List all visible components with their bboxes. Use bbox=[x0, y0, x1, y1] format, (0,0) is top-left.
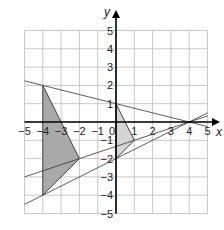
y-tick-label: 1 bbox=[107, 98, 113, 110]
y-tick-label: −5 bbox=[100, 208, 113, 220]
y-tick-label: −2 bbox=[100, 153, 113, 165]
coordinate-grid: xy−5−4−3−2−101234554321−1−2−3−4−5 bbox=[0, 0, 224, 230]
y-tick-label: 2 bbox=[107, 79, 113, 91]
y-tick-label: −3 bbox=[100, 171, 113, 183]
x-tick-label: −5 bbox=[18, 125, 31, 137]
x-tick-label: −3 bbox=[55, 125, 68, 137]
x-tick-label: 5 bbox=[204, 125, 210, 137]
x-tick-label: 1 bbox=[131, 125, 137, 137]
y-tick-label: −4 bbox=[100, 189, 113, 201]
y-tick-label: 5 bbox=[107, 25, 113, 37]
y-axis-arrow-icon bbox=[112, 10, 120, 18]
y-axis-label: y bbox=[103, 5, 111, 19]
y-tick-label: 4 bbox=[107, 43, 113, 55]
x-tick-label: 2 bbox=[150, 125, 156, 137]
x-tick-label: 4 bbox=[186, 125, 192, 137]
x-tick-label: 3 bbox=[168, 125, 174, 137]
y-tick-label: −1 bbox=[100, 134, 113, 146]
x-axis-label: x bbox=[215, 125, 223, 139]
x-tick-label: −2 bbox=[73, 125, 86, 137]
y-tick-label: 3 bbox=[107, 61, 113, 73]
x-tick-label: −4 bbox=[37, 125, 50, 137]
